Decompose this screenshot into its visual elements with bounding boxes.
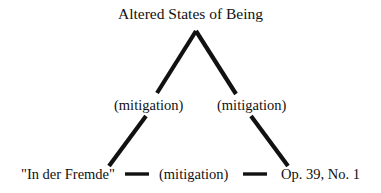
edge-root-to-mid-left [157,31,196,93]
edge-layer [0,0,381,193]
node-leaf-left: "In der Fremde" [21,167,115,182]
node-mid-left: (mitigation) [114,98,183,113]
tree-diagram: Altered States of Being (mitigation) (mi… [0,0,381,193]
edge-root-to-mid-right [196,31,236,94]
node-leaf-center: (mitigation) [159,167,228,182]
edge-mid-right-to-leaf-right [251,116,288,166]
node-mid-right: (mitigation) [217,98,286,113]
edge-mid-left-to-leaf-left [109,116,146,166]
node-root: Altered States of Being [0,6,381,22]
node-leaf-right: Op. 39, No. 1 [281,167,360,182]
